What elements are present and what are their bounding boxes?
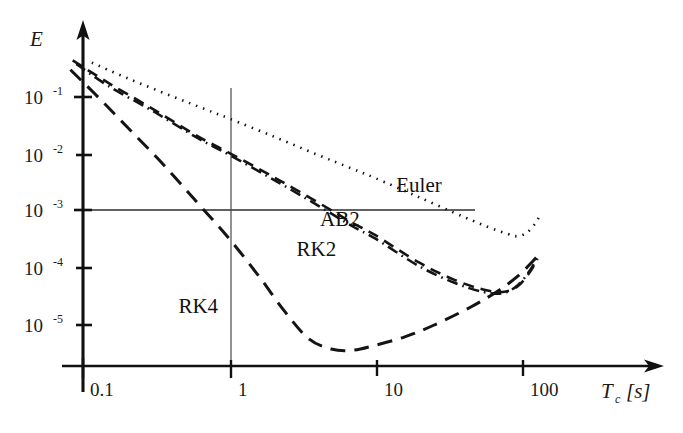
x-axis-title: T c [s] — [601, 379, 651, 406]
curve-label-ab2: AB2 — [320, 207, 360, 231]
y-tick-label-1e-4-base: 10 — [24, 258, 43, 279]
x-tick-labels: 0.1 1 10 100 — [90, 379, 559, 400]
x-tick-label-1: 1 — [238, 379, 248, 400]
y-tick-label-1e-2-base: 10 — [24, 145, 43, 166]
x-axis-title-unit: [s] — [626, 379, 651, 403]
x-axis-title-symbol: T — [601, 379, 614, 403]
y-tick-label-1e-2-exp: -2 — [53, 142, 63, 156]
y-tick-label-1e-1-exp: -1 — [53, 84, 63, 98]
y-tick-labels: 10 -1 10 -2 10 -3 10 -4 10 -5 — [24, 84, 63, 336]
y-tick-label-1e-4-exp: -4 — [53, 255, 63, 269]
error-vs-period-chart: 10 -1 10 -2 10 -3 10 -4 10 -5 0.1 1 10 1… — [0, 0, 683, 433]
y-tick-label-1e-5-exp: -5 — [53, 312, 63, 326]
curve-label-euler: Euler — [396, 173, 441, 197]
x-tick-label-3: 100 — [530, 379, 559, 400]
x-tick-label-2: 10 — [384, 379, 403, 400]
y-tick-label-1e-1-base: 10 — [24, 87, 43, 108]
data-curves — [70, 60, 540, 350]
curve-label-rk4: RK4 — [178, 294, 218, 318]
curve-label-rk2: RK2 — [297, 237, 337, 261]
x-axis-title-subscript: c — [615, 392, 621, 406]
x-tick-marks — [83, 358, 523, 378]
y-tick-label-1e-3-exp: -3 — [53, 197, 63, 211]
y-tick-label-1e-5-base: 10 — [24, 315, 43, 336]
x-tick-label-0: 0.1 — [90, 379, 114, 400]
chart-canvas: 10 -1 10 -2 10 -3 10 -4 10 -5 0.1 1 10 1… — [0, 0, 683, 433]
y-axis-title: E — [29, 27, 43, 51]
y-tick-label-1e-3-base: 10 — [24, 200, 43, 221]
curve-annotations: EulerAB2RK2RK4 — [178, 173, 441, 319]
